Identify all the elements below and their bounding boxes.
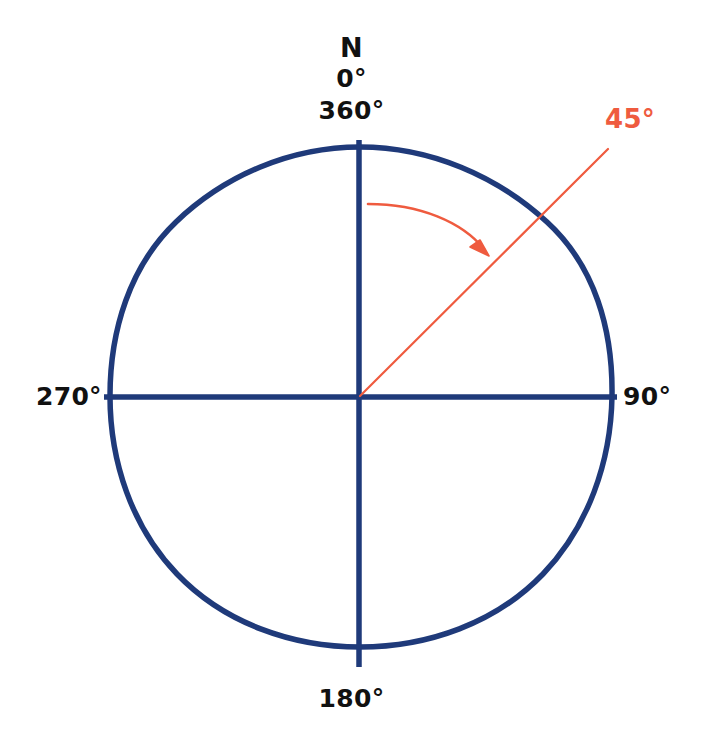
- label-45-degrees-bearing: 45°: [605, 106, 655, 132]
- label-270-degrees: 270°: [36, 384, 102, 409]
- sweep-arc: [368, 204, 484, 249]
- label-north: N: [0, 34, 703, 61]
- label-zero-degrees: 0°: [0, 66, 703, 91]
- label-360-degrees: 360°: [0, 98, 703, 123]
- sweep-arrowhead-icon: [470, 240, 489, 256]
- label-90-degrees: 90°: [623, 384, 671, 409]
- compass-diagram: N 0° 360° 270° 90° 180° 45°: [0, 0, 703, 744]
- bearing-ray-45: [360, 149, 608, 396]
- label-180-degrees: 180°: [0, 686, 703, 711]
